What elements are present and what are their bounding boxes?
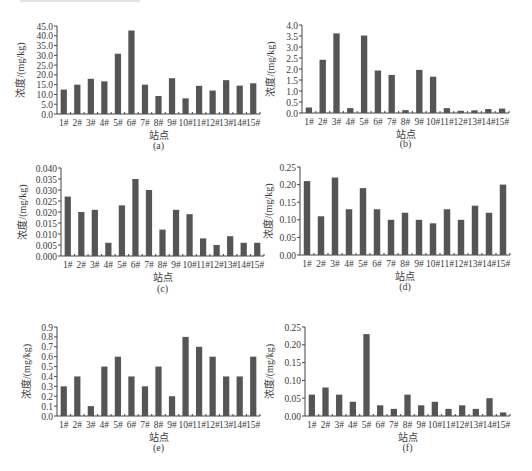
bar — [74, 85, 80, 114]
y-tick-label: 30.0 — [36, 51, 53, 61]
bar-chart-f: 0.000.050.100.150.200.251#2#3#4#5#6#7#8#… — [263, 323, 511, 455]
x-tick-label: 9# — [167, 420, 177, 430]
bar — [347, 108, 353, 113]
bar — [155, 96, 161, 114]
x-tick-label: 3# — [90, 260, 100, 270]
x-tick-label: 1# — [304, 117, 314, 127]
bar — [458, 111, 464, 113]
x-tick-label: 10# — [182, 260, 197, 270]
x-tick-label: 13# — [223, 260, 238, 270]
y-axis-label: 浓度/(mg/kg) — [16, 185, 29, 240]
x-tick-label: 10# — [178, 118, 193, 128]
bar — [142, 85, 148, 114]
x-tick-label: 1# — [63, 260, 73, 270]
y-tick-label: 0.4 — [41, 372, 53, 382]
y-tick-label: 0.7 — [41, 342, 53, 352]
x-tick-label: 14# — [482, 420, 497, 430]
x-tick-label: 6# — [127, 420, 137, 430]
y-axis-label: 浓度/(mg/kg) — [14, 43, 27, 98]
bar — [88, 79, 94, 114]
y-tick-label: 5.0 — [41, 100, 53, 110]
x-tick-label: 7# — [387, 117, 397, 127]
bar — [361, 36, 367, 113]
bar — [346, 209, 352, 255]
y-tick-label: 2.5 — [286, 54, 298, 64]
bar — [416, 70, 422, 113]
panel-caption: (c) — [157, 283, 168, 295]
bar — [388, 220, 394, 255]
x-tick-label: 8# — [154, 118, 164, 128]
x-tick-label: 7# — [389, 420, 399, 430]
x-tick-label: 1# — [59, 420, 69, 430]
bar — [374, 209, 380, 255]
x-tick-label: 12# — [454, 259, 469, 269]
bar — [402, 110, 408, 113]
x-tick-label: 14# — [481, 117, 496, 127]
bar — [173, 210, 179, 256]
y-tick-label: 0.15 — [284, 358, 301, 368]
y-tick-label: 15.0 — [36, 80, 53, 90]
bar — [169, 396, 175, 416]
bar — [472, 206, 478, 255]
x-tick-label: 14# — [233, 420, 248, 430]
x-tick-label: 11# — [440, 117, 454, 127]
bar — [250, 357, 256, 416]
y-tick-label: 10.0 — [36, 90, 53, 100]
y-tick-label: 0.0 — [41, 110, 53, 120]
bar — [241, 243, 247, 256]
y-tick-label: 0.3 — [41, 382, 53, 392]
bar — [432, 402, 438, 416]
x-tick-label: 1# — [302, 259, 312, 269]
bar — [306, 108, 312, 114]
y-tick-label: 0.005 — [36, 241, 58, 251]
x-axis-label: 站点 — [153, 271, 173, 283]
bar — [92, 210, 98, 256]
x-tick-label: 7# — [140, 118, 150, 128]
bar — [101, 367, 107, 416]
panel-caption: (a) — [153, 140, 164, 152]
y-tick-label: 0.25 — [284, 323, 301, 333]
bar — [402, 213, 408, 255]
x-tick-label: 5# — [358, 259, 368, 269]
bar — [182, 337, 188, 416]
bar — [320, 60, 326, 113]
bar — [119, 205, 125, 256]
panel-caption: (d) — [399, 281, 411, 293]
bar — [416, 220, 422, 255]
y-tick-label: 0.010 — [36, 230, 58, 240]
bar — [309, 395, 315, 416]
y-tick-label: 0.025 — [36, 197, 58, 207]
x-tick-label: 10# — [426, 117, 441, 127]
bar — [499, 109, 505, 113]
x-tick-label: 12# — [210, 260, 225, 270]
x-tick-label: 4# — [100, 118, 110, 128]
bar — [61, 90, 67, 114]
x-tick-label: 7# — [144, 260, 154, 270]
x-tick-label: 14# — [233, 118, 248, 128]
x-tick-label: 13# — [219, 118, 234, 128]
bar — [333, 33, 339, 113]
x-tick-label: 12# — [206, 118, 221, 128]
y-tick-label: 0.020 — [36, 208, 58, 218]
bar-chart-c: 0.0000.0050.0100.0150.0200.0250.0300.035… — [16, 164, 265, 296]
x-tick-label: 15# — [250, 260, 265, 270]
y-tick-label: 0.5 — [286, 98, 298, 108]
y-axis-label: 浓度/(mg/kg) — [262, 184, 275, 239]
x-tick-label: 2# — [321, 420, 331, 430]
bar — [115, 54, 121, 114]
bar-chart-a: 0.05.010.015.020.025.030.035.040.045.01#… — [14, 22, 261, 153]
y-tick-label: 0.10 — [279, 215, 296, 225]
bar — [500, 185, 506, 255]
bar — [155, 367, 161, 416]
x-tick-label: 5# — [362, 420, 372, 430]
x-tick-label: 4# — [346, 117, 356, 127]
x-tick-label: 3# — [334, 420, 344, 430]
y-tick-label: 0.040 — [36, 164, 58, 174]
bar — [418, 405, 424, 416]
bar — [223, 80, 229, 114]
x-tick-label: 9# — [167, 118, 177, 128]
y-axis-label: 浓度/(mg/kg) — [264, 42, 277, 97]
bar — [377, 405, 383, 416]
x-tick-label: 15# — [495, 117, 510, 127]
bar — [186, 214, 192, 256]
